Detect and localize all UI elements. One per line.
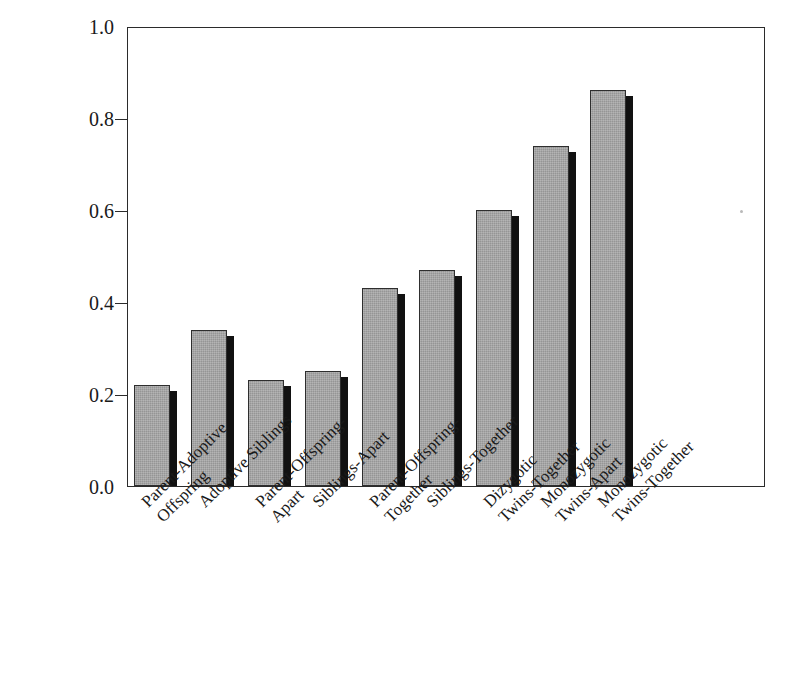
y-axis-tick-label: 1.0 — [52, 17, 114, 37]
chart-page: Correlations 1.00.80.60.40.20.0 Parent-A… — [0, 0, 794, 681]
y-axis-tick-label: 0.6 — [52, 201, 114, 221]
y-axis-tick-mark — [115, 395, 128, 396]
y-axis-tick-label: 0.2 — [52, 385, 114, 405]
scan-speck — [740, 210, 743, 213]
y-axis-tick-label: 0.4 — [52, 293, 114, 313]
y-axis-tick-mark — [115, 119, 128, 120]
y-axis-tick-label: 0.8 — [52, 109, 114, 129]
y-axis-tick-mark — [115, 303, 128, 304]
y-axis-tick-label: 0.0 — [52, 477, 114, 497]
y-axis-tick-label-group: 1.00.80.60.40.20.0 — [36, 0, 114, 681]
y-axis-tick-mark — [115, 211, 128, 212]
